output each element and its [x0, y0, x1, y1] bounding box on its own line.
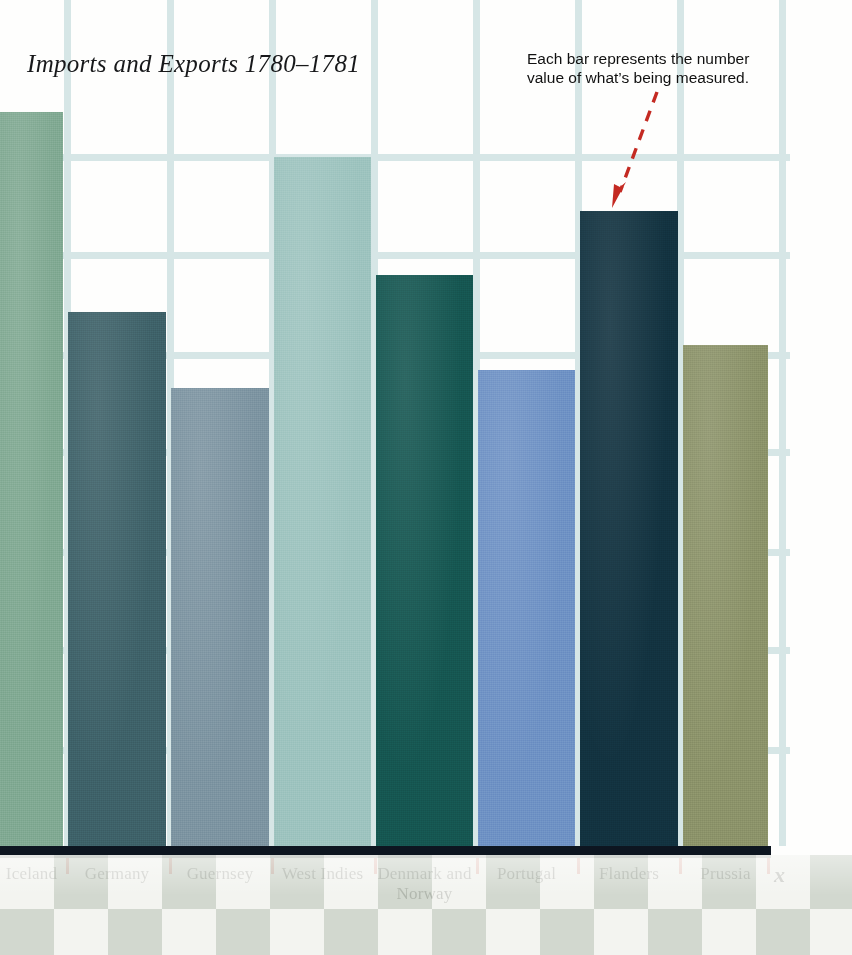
bar-sheen: [0, 112, 63, 846]
bar-flanders[interactable]: [580, 211, 678, 846]
bar-germany[interactable]: [68, 312, 166, 846]
bar-sheen: [171, 388, 269, 846]
bar-sheen: [683, 345, 768, 846]
annotation-arrow-icon: [560, 70, 720, 220]
bar-sheen: [376, 275, 473, 846]
bar-sheen: [580, 211, 678, 846]
bar-denmark-and-norway[interactable]: [376, 275, 473, 846]
bar-sheen: [68, 312, 166, 846]
bar-iceland[interactable]: [0, 112, 63, 846]
bar-prussia[interactable]: [683, 345, 768, 846]
annotation-callout: Each bar represents the number value of …: [527, 50, 797, 87]
annotation-line-1: Each bar represents the number: [527, 50, 797, 69]
decorative-floor-pattern: [0, 855, 852, 955]
bar-sheen: [478, 370, 575, 846]
bar-sheen: [274, 157, 371, 846]
annotation-line-2: value of what’s being measured.: [527, 69, 797, 88]
bar-portugal[interactable]: [478, 370, 575, 846]
chart-canvas: x IcelandGermanyGuernseyWest IndiesDenma…: [0, 0, 852, 955]
gridline-vertical: [779, 0, 786, 846]
bar-west-indies[interactable]: [274, 157, 371, 846]
page-title: Imports and Exports 1780–1781: [27, 50, 360, 78]
bar-guernsey[interactable]: [171, 388, 269, 846]
